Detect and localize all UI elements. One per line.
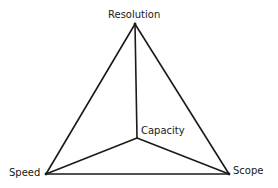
edge-resolution-speed [46, 24, 135, 174]
label-speed: Speed [9, 168, 40, 178]
edge-scope-capacity [137, 138, 229, 174]
label-capacity: Capacity [141, 126, 185, 136]
vertex-scope [228, 173, 231, 176]
vertex-speed [45, 173, 48, 176]
label-resolution: Resolution [108, 10, 160, 20]
edge-speed-capacity [46, 138, 137, 174]
tetrahedron-diagram [0, 0, 278, 188]
edge-resolution-scope [135, 24, 229, 174]
vertex-resolution [134, 23, 137, 26]
label-scope: Scope [233, 166, 263, 176]
edge-resolution-capacity [135, 24, 137, 138]
